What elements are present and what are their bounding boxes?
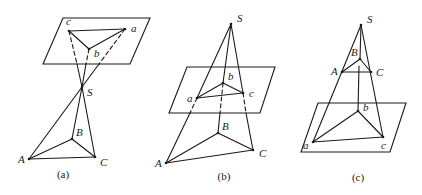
vertex-label: a bbox=[131, 22, 137, 34]
vertex-c bbox=[382, 136, 385, 139]
edge bbox=[223, 83, 243, 93]
panel-b: SbacBAC(b) bbox=[154, 12, 275, 183]
vertex-b bbox=[222, 82, 225, 85]
vertex-a bbox=[312, 141, 315, 144]
vertex-C bbox=[252, 149, 255, 152]
vertex-c bbox=[242, 92, 245, 95]
edge bbox=[72, 139, 95, 157]
vertex-B bbox=[359, 58, 362, 61]
edge bbox=[29, 139, 72, 159]
edge bbox=[89, 29, 125, 49]
edge bbox=[358, 111, 383, 137]
edge bbox=[313, 137, 383, 142]
hidden-edge bbox=[69, 31, 77, 64]
vertex-label: b bbox=[228, 70, 234, 82]
vertex-B bbox=[217, 132, 220, 135]
edge bbox=[246, 113, 253, 150]
edge bbox=[313, 25, 361, 142]
vertex-b bbox=[357, 110, 360, 113]
hidden-edge bbox=[220, 83, 223, 113]
hidden-edge bbox=[86, 49, 89, 64]
panel-caption: (c) bbox=[352, 171, 365, 184]
vertex-c bbox=[68, 30, 71, 33]
vertex-C bbox=[94, 156, 97, 159]
vertex-label: c bbox=[381, 139, 386, 151]
panel-caption: (b) bbox=[218, 170, 231, 183]
vertex-label: S bbox=[367, 13, 373, 25]
panel-caption: (a) bbox=[57, 168, 70, 181]
vertex-A bbox=[341, 71, 344, 74]
vertex-label: S bbox=[87, 86, 93, 98]
vertex-label: A bbox=[154, 157, 162, 169]
edge bbox=[358, 66, 359, 111]
vertex-label: A bbox=[17, 153, 25, 165]
vertex-label: c bbox=[66, 15, 71, 27]
vertex-label: B bbox=[222, 120, 229, 132]
vertex-a bbox=[124, 28, 127, 31]
vertex-A bbox=[165, 162, 168, 165]
edge bbox=[166, 150, 253, 163]
vertex-label: C bbox=[376, 66, 384, 78]
vertex-label: S bbox=[237, 12, 243, 24]
vertex-S bbox=[81, 86, 84, 89]
edge bbox=[77, 64, 82, 87]
edge bbox=[29, 87, 82, 159]
vertex-label: C bbox=[100, 156, 108, 168]
edge bbox=[29, 157, 95, 159]
edge bbox=[231, 24, 243, 93]
projection-diagram: cabSBAC(a) SbacBAC(b) SBACbac(c) bbox=[0, 0, 422, 195]
edge bbox=[69, 29, 125, 31]
vertex-label: B bbox=[76, 126, 83, 138]
vertex-label: b bbox=[94, 47, 100, 59]
edge bbox=[218, 133, 253, 150]
vertex-label: a bbox=[187, 92, 193, 104]
projection-plane bbox=[301, 103, 406, 152]
edge bbox=[69, 31, 89, 49]
vertex-label: a bbox=[303, 139, 309, 151]
vertex-a bbox=[196, 97, 199, 100]
edge bbox=[361, 25, 383, 137]
hidden-edge bbox=[243, 93, 246, 113]
panel-c: SBACbac(c) bbox=[301, 13, 406, 184]
edge bbox=[218, 113, 220, 133]
diagram-canvas: cabSBAC(a) SbacBAC(b) SBACbac(c) bbox=[0, 0, 422, 195]
vertex-S bbox=[360, 24, 363, 27]
vertex-b bbox=[88, 48, 91, 51]
vertex-C bbox=[370, 71, 373, 74]
hidden-edge bbox=[99, 29, 125, 64]
vertex-A bbox=[28, 158, 31, 161]
vertex-label: b bbox=[363, 101, 369, 113]
vertex-S bbox=[230, 23, 233, 26]
panel-a: cabSBAC(a) bbox=[17, 15, 150, 181]
vertex-label: B bbox=[351, 46, 358, 58]
vertex-label: A bbox=[330, 65, 338, 77]
edge bbox=[360, 25, 361, 59]
vertex-B bbox=[71, 138, 74, 141]
vertex-label: c bbox=[249, 87, 254, 99]
vertex-label: C bbox=[259, 147, 267, 159]
